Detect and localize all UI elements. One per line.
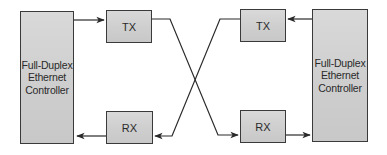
left-rx-label: RX <box>122 122 137 134</box>
left-ethernet-controller: Full-Duplex Ethernet Controller <box>20 11 74 144</box>
right-rx-box: RX <box>240 110 286 143</box>
left-rx-box: RX <box>106 111 153 144</box>
right-tx-label: TX <box>256 20 270 32</box>
right-controller-label-line-1: Full-Duplex <box>315 57 366 70</box>
right-controller-label-line-3: Controller <box>318 82 362 95</box>
left-tx-label: TX <box>122 21 136 33</box>
ethernet-crossover-diagram: Full-Duplex Ethernet Controller TX RX TX… <box>0 0 387 155</box>
left-tx-box: TX <box>106 10 152 43</box>
right-controller-label-line-2: Ethernet <box>321 69 359 82</box>
left-controller-label-line-1: Full-Duplex <box>22 59 73 72</box>
left-controller-label-line-3: Controller <box>25 84 69 97</box>
right-ethernet-controller: Full-Duplex Ethernet Controller <box>312 9 368 142</box>
left-controller-label-line-2: Ethernet <box>28 71 66 84</box>
right-tx-box: TX <box>240 9 286 42</box>
wire-left-tx-to-right-rx <box>152 19 238 135</box>
right-rx-label: RX <box>255 121 270 133</box>
wire-right-tx-to-left-rx <box>155 19 240 136</box>
